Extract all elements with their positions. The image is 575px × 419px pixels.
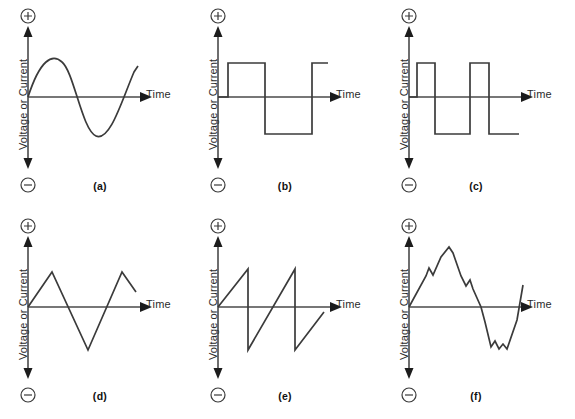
panel-caption-d: (d): [0, 390, 190, 402]
panel-c: Time Voltage or Current (c): [381, 0, 571, 209]
vertical-axis-label: Voltage or Current: [207, 59, 219, 150]
vertical-axis-label: Voltage or Current: [17, 59, 29, 150]
down-arrow-icon: [214, 368, 223, 379]
triangle-wave-trace: [28, 272, 136, 350]
rectangular-pulse-wave-trace: [409, 63, 519, 134]
up-arrow-icon: [405, 26, 414, 37]
panel-caption-a: (a): [0, 180, 190, 192]
plus-glyph-icon: [24, 222, 32, 230]
time-axis-label: Time: [146, 88, 171, 100]
time-axis-label: Time: [146, 298, 171, 310]
panel-b: Time Voltage or Current (b): [190, 0, 380, 209]
sawtooth-wave-trace: [218, 269, 324, 350]
panel-caption-e: (e): [190, 390, 380, 402]
up-arrow-icon: [214, 26, 223, 37]
vertical-axis-label: Voltage or Current: [207, 269, 219, 360]
down-arrow-icon: [405, 158, 414, 169]
vertical-axis-label: Voltage or Current: [398, 269, 410, 360]
plus-glyph-icon: [405, 12, 413, 20]
panel-caption-b: (b): [190, 180, 380, 192]
up-arrow-icon: [24, 236, 33, 247]
panel-d: Time Voltage or Current (d): [0, 210, 190, 419]
plus-glyph-icon: [214, 12, 222, 20]
up-arrow-icon: [24, 26, 33, 37]
complex-irregular-wave-trace: [409, 247, 523, 349]
up-arrow-icon: [214, 236, 223, 247]
panel-e: Time Voltage or Current (e): [190, 210, 380, 419]
panel-caption-f: (f): [381, 390, 571, 402]
time-axis-label: Time: [336, 298, 361, 310]
vertical-axis-label: Voltage or Current: [398, 59, 410, 150]
plus-glyph-icon: [214, 222, 222, 230]
vertical-axis-label: Voltage or Current: [17, 269, 29, 360]
waveform-figure: Time Voltage or Current (a) Time Voltage…: [0, 0, 575, 419]
time-axis-label: Time: [527, 298, 552, 310]
down-arrow-icon: [24, 368, 33, 379]
panel-f: Time Voltage or Current (f): [381, 210, 571, 419]
down-arrow-icon: [214, 158, 223, 169]
up-arrow-icon: [405, 236, 414, 247]
panel-a: Time Voltage or Current (a): [0, 0, 190, 209]
time-axis-label: Time: [527, 88, 552, 100]
down-arrow-icon: [405, 368, 414, 379]
down-arrow-icon: [24, 158, 33, 169]
square-wave-trace: [218, 63, 328, 134]
panel-caption-c: (c): [381, 180, 571, 192]
plus-glyph-icon: [24, 12, 32, 20]
plus-glyph-icon: [405, 222, 413, 230]
time-axis-label: Time: [336, 88, 361, 100]
